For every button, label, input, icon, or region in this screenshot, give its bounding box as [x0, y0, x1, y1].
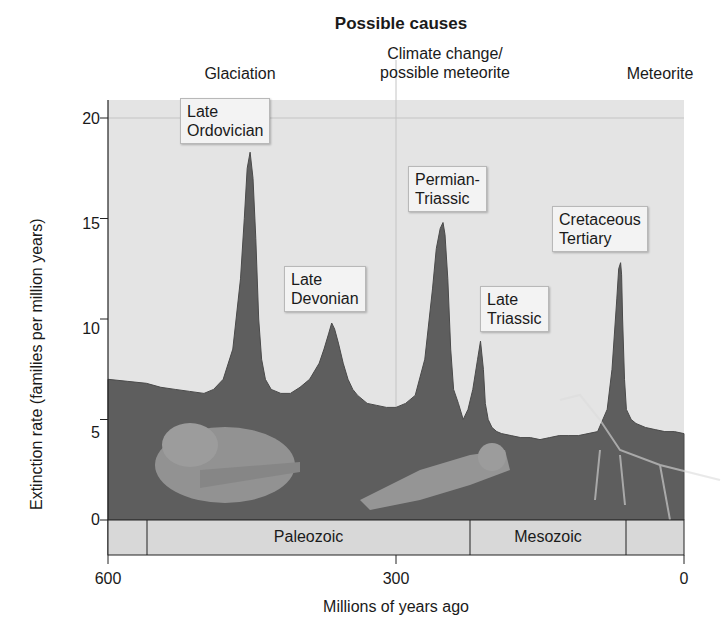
x-tick-label-300: 300: [366, 570, 426, 588]
y-ticks: [100, 118, 108, 520]
event-late-ordovician: Late Ordovician: [180, 98, 270, 144]
event-permian-triassic: Permian- Triassic: [408, 166, 487, 212]
event-late-triassic: Late Triassic: [480, 286, 549, 332]
y-tick-10: 10: [70, 320, 100, 338]
cause-meteorite: Meteorite: [610, 64, 710, 83]
era-paleozoic: Paleozoic: [147, 528, 470, 546]
y-axis-label: Extinction rate (families per million ye…: [28, 218, 46, 510]
cause-glaciation: Glaciation: [190, 64, 290, 83]
x-tick-label-600: 600: [78, 570, 138, 588]
y-tick-20: 20: [70, 110, 100, 128]
cause-climate-change: Climate change/ possible meteorite: [355, 44, 535, 82]
event-late-devonian: Late Devonian: [284, 266, 366, 312]
y-tick-0: 0: [70, 511, 100, 529]
x-tick-label-0: 0: [654, 570, 714, 588]
chart-title: Possible causes: [0, 14, 722, 34]
y-tick-5: 5: [70, 424, 100, 442]
y-tick-15: 15: [70, 215, 100, 233]
x-axis-label: Millions of years ago: [246, 598, 546, 616]
event-cretaceous-tertiary: Cretaceous Tertiary: [552, 206, 648, 252]
era-mesozoic: Mesozoic: [470, 528, 626, 546]
